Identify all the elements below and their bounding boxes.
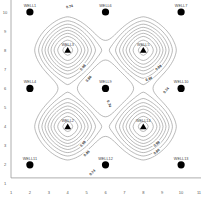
well-circle-icon	[102, 161, 109, 168]
well-label: WELL5	[137, 43, 149, 47]
well-markers: WELL1WELL6WELL7WELL4WELL9WELL10WELL11WEL…	[23, 4, 189, 168]
well-label: WELL3	[61, 43, 73, 47]
well-circle-icon	[26, 85, 33, 92]
well-circle-icon	[178, 85, 185, 92]
well-circle-icon	[26, 8, 33, 15]
well-label: WELL2	[61, 119, 73, 123]
contour-chart: 123456789101234567891011 0.740.980.860.9…	[0, 0, 202, 212]
contour-label: 0.74	[106, 100, 112, 108]
well-triangle-icon	[140, 123, 147, 129]
well-circle-icon	[178, 8, 185, 15]
well-label: WELL1	[24, 4, 36, 8]
well-triangle-icon	[140, 47, 147, 53]
y-tick-label: 10	[3, 10, 8, 15]
well-label: WELL6	[99, 4, 111, 8]
well-label: WELL12	[98, 157, 113, 161]
well-label: WELL14	[136, 119, 151, 123]
well-label: WELL10	[174, 80, 189, 84]
well-label: WELL11	[23, 157, 37, 161]
well-circle-icon	[178, 161, 185, 168]
contour-label: 0.74	[66, 4, 74, 10]
well-triangle-icon	[64, 47, 71, 53]
well-label: WELL13	[174, 157, 189, 161]
well-label: WELL9	[99, 80, 111, 84]
well-circle-icon	[26, 161, 33, 168]
well-label: WELL4	[24, 80, 36, 84]
plot-mask	[0, 0, 202, 212]
well-circle-icon	[102, 8, 109, 15]
well-label: WELL7	[175, 4, 187, 8]
x-tick-label: 10	[179, 190, 184, 195]
well-circle-icon	[102, 85, 109, 92]
well-triangle-icon	[64, 123, 71, 129]
